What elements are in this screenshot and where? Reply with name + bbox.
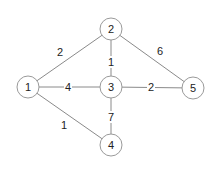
node-2: 2: [100, 18, 122, 40]
edge-weight-2-3: 1: [108, 56, 114, 68]
node-label-4: 4: [108, 139, 114, 151]
edge-weight-3-4: 7: [108, 111, 114, 123]
weighted-graph-diagram: 2 6 1 4 2 7 1 1 2 3 4 5: [0, 0, 218, 169]
node-label-1: 1: [25, 81, 31, 93]
node-1: 1: [17, 76, 39, 98]
node-label-5: 5: [190, 82, 196, 94]
edge-1-4: [28, 87, 111, 145]
edge-weight-1-2: 2: [57, 46, 63, 58]
edge-1-2: [28, 29, 111, 87]
edge-weight-3-5: 2: [148, 81, 154, 93]
edge-weight-1-4: 1: [61, 119, 67, 131]
node-5: 5: [182, 77, 204, 99]
node-label-3: 3: [108, 81, 114, 93]
node-3: 3: [100, 76, 122, 98]
node-4: 4: [100, 134, 122, 156]
edge-weight-2-5: 6: [157, 45, 163, 57]
edge-2-5: [111, 29, 193, 88]
node-label-2: 2: [108, 23, 114, 35]
edge-weight-1-3: 4: [65, 81, 71, 93]
